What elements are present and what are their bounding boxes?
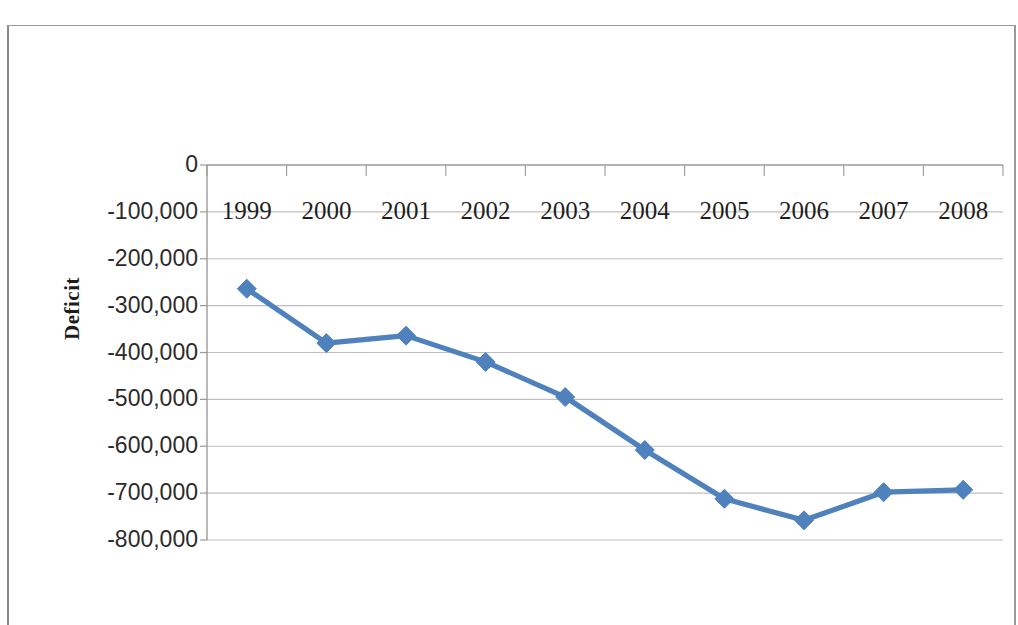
x-axis-tick-label: 2001 <box>366 198 446 223</box>
data-point-marker <box>874 483 893 502</box>
x-axis-tick-label: 2003 <box>525 198 605 223</box>
y-axis-tick-label: -500,000 <box>38 387 198 410</box>
y-axis-tick-label: -400,000 <box>38 341 198 364</box>
x-axis-tick-label: 2008 <box>923 198 1003 223</box>
y-axis-tick-label: -200,000 <box>38 247 198 270</box>
y-axis-tick-label: -300,000 <box>38 294 198 317</box>
y-axis-tick-label: 0 <box>38 153 198 176</box>
data-line-deficit <box>247 289 963 521</box>
data-point-marker <box>397 326 416 345</box>
data-point-marker <box>954 480 973 499</box>
x-axis-tick-label: 2000 <box>287 198 367 223</box>
y-axis-tick-label: -800,000 <box>38 528 198 551</box>
x-axis-tick-label: 2004 <box>605 198 685 223</box>
x-axis-tick-label: 2002 <box>446 198 526 223</box>
x-axis-tick-label: 2005 <box>685 198 765 223</box>
y-axis-tick-label: -100,000 <box>38 200 198 223</box>
data-point-marker <box>795 511 814 530</box>
x-axis-tick-label: 2006 <box>764 198 844 223</box>
y-axis-tick-label: -600,000 <box>38 434 198 457</box>
data-point-marker <box>476 352 495 371</box>
x-axis-tick-label: 1999 <box>207 198 287 223</box>
y-axis-tick-label: -700,000 <box>38 481 198 504</box>
x-axis-tick-label: 2007 <box>844 198 924 223</box>
